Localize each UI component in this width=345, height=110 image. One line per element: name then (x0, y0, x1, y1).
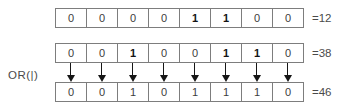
bitwise-or-diagram: OR(|) 00001100 =12 00100110 =38 00101110… (0, 0, 345, 110)
bit-cell: 1 (211, 8, 242, 28)
arrow-stem (194, 63, 196, 75)
arrow-stem (132, 63, 134, 75)
bit-cell: 0 (87, 43, 118, 63)
arrow-head (67, 75, 75, 82)
arrow-head (98, 75, 106, 82)
bit-cell: 1 (180, 8, 211, 28)
arrow-head (191, 75, 199, 82)
arrow-head (160, 75, 168, 82)
bit-cell: 0 (55, 8, 87, 28)
bit-cell: 0 (87, 8, 118, 28)
arrow-stem (70, 63, 72, 75)
bit-cell: 0 (149, 82, 180, 102)
bit-cell: 0 (273, 82, 304, 102)
bit-cell: 0 (273, 8, 304, 28)
arrows-row (55, 63, 303, 82)
bit-row-result: 00101110 (55, 82, 304, 102)
result-value-operand-a: =12 (312, 8, 345, 28)
operation-label: OR(|) (8, 69, 38, 81)
down-arrow-icon (210, 63, 241, 82)
arrow-stem (256, 63, 258, 75)
down-arrow-icon (179, 63, 210, 82)
bit-cell: 0 (180, 43, 211, 63)
bit-cell: 1 (180, 82, 211, 102)
bit-cell: 1 (211, 82, 242, 102)
bit-cell: 0 (149, 43, 180, 63)
bit-cell: 0 (118, 8, 149, 28)
arrow-stem (101, 63, 103, 75)
down-arrow-icon (272, 63, 303, 82)
arrow-head (129, 75, 137, 82)
down-arrow-icon (117, 63, 148, 82)
result-value-result: =46 (312, 82, 345, 102)
arrow-head (222, 75, 230, 82)
down-arrow-icon (86, 63, 117, 82)
bit-cell: 1 (242, 82, 273, 102)
bit-cell: 1 (118, 43, 149, 63)
down-arrow-icon (55, 63, 86, 82)
bit-cell: 0 (273, 43, 304, 63)
bit-cell: 0 (55, 43, 87, 63)
bit-cell: 1 (118, 82, 149, 102)
bit-cell: 1 (211, 43, 242, 63)
down-arrow-icon (148, 63, 179, 82)
bit-cell: 0 (242, 8, 273, 28)
arrow-stem (287, 63, 289, 75)
bit-cell: 0 (87, 82, 118, 102)
arrow-head (253, 75, 261, 82)
arrow-head (284, 75, 292, 82)
result-value-operand-b: =38 (312, 43, 345, 63)
bit-row-operand-a: 00001100 (55, 8, 304, 28)
arrow-stem (225, 63, 227, 75)
bit-cell: 0 (149, 8, 180, 28)
bit-cell: 1 (242, 43, 273, 63)
bit-cell: 0 (55, 82, 87, 102)
arrow-stem (163, 63, 165, 75)
down-arrow-icon (241, 63, 272, 82)
bit-row-operand-b: 00100110 (55, 43, 304, 63)
